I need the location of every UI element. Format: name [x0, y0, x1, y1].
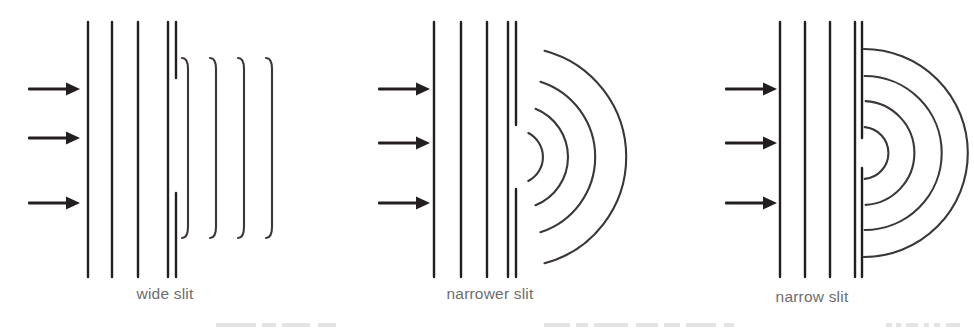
incoming-direction-arrows — [725, 83, 777, 210]
diffracted-wavefront — [266, 58, 272, 238]
diffracted-wavefront — [210, 58, 216, 238]
direction-arrow-icon — [378, 83, 430, 96]
diffracted-wavefront — [865, 127, 889, 179]
narrow-slit-diagram — [650, 0, 974, 300]
diffracted-wavefront — [866, 101, 915, 205]
panel-wide-slit: wide slit — [0, 0, 330, 328]
panel-caption-narrow-slit: narrow slit — [650, 288, 974, 306]
direction-arrow-icon — [725, 83, 777, 96]
bleed-mark — [262, 323, 276, 327]
diffracted-wavefront — [182, 58, 188, 238]
diffraction-figure: wide slit — [0, 0, 974, 328]
direction-arrow-icon — [725, 197, 777, 210]
diffracted-wavefront — [528, 133, 543, 181]
bleed-mark — [318, 323, 336, 327]
bleed-mark — [924, 323, 929, 327]
page-bleed-strip — [0, 322, 974, 328]
bleed-mark — [946, 323, 960, 327]
bleed-mark — [886, 323, 892, 327]
direction-arrow-icon — [378, 197, 430, 210]
bleed-mark — [216, 323, 256, 327]
bleed-mark — [686, 323, 716, 327]
bleed-mark — [896, 323, 901, 327]
incoming-direction-arrows — [28, 83, 80, 210]
incoming-direction-arrows — [378, 83, 430, 210]
bleed-mark — [724, 323, 734, 327]
bleed-mark — [664, 323, 680, 327]
panel-narrow-slit: narrow slit — [650, 0, 974, 328]
direction-arrow-icon — [28, 132, 80, 145]
direction-arrow-icon — [378, 137, 430, 150]
wide-slit-diagram — [0, 0, 330, 300]
bleed-mark — [636, 323, 658, 327]
bleed-mark — [576, 323, 588, 327]
diffracted-wavefront — [238, 58, 244, 238]
direction-arrow-icon — [28, 83, 80, 96]
direction-arrow-icon — [28, 197, 80, 210]
bleed-mark — [594, 323, 628, 327]
panel-caption-narrower-slit: narrower slit — [330, 285, 650, 303]
diffracted-wavefront — [864, 49, 968, 257]
panel-narrower-slit: narrower slit — [330, 0, 650, 328]
bleed-mark — [906, 323, 918, 327]
diffracted-wavefront — [865, 76, 942, 230]
bleed-mark — [282, 323, 310, 327]
direction-arrow-icon — [725, 137, 777, 150]
bleed-mark — [544, 323, 570, 327]
bleed-mark — [934, 323, 940, 327]
diffracted-wavefront — [536, 109, 568, 205]
narrower-slit-diagram — [330, 0, 650, 300]
panel-caption-wide-slit: wide slit — [0, 285, 330, 303]
diffracted-wavefront — [545, 51, 627, 264]
